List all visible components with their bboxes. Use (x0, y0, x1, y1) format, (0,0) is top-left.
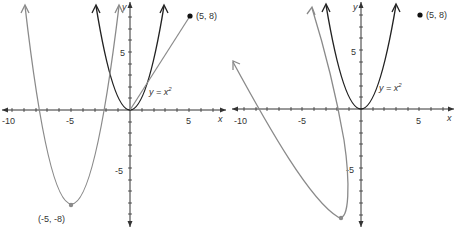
y-tick-label: 5 (351, 47, 356, 57)
y-axis-top-arrow-icon (359, 2, 364, 8)
x-axis-left-arrow-icon (2, 108, 8, 113)
y-axis-bottom-arrow-icon (128, 221, 133, 227)
point-label: (5, 8) (426, 10, 447, 20)
x-tick-label: -5 (298, 116, 306, 126)
transformed-parabola (233, 8, 348, 218)
x-axis-right-arrow-icon (220, 108, 226, 113)
y-axis-label: y (352, 2, 358, 12)
point-label: (5, 8) (196, 11, 217, 21)
right-panel: -10 -5 5 5 -5 x y (5, 8) y = x2 (232, 2, 454, 227)
vertex-marker (69, 203, 73, 207)
y-axis-bottom-arrow-icon (359, 221, 364, 227)
y-axis-top-arrow-icon (128, 2, 133, 8)
left-panel: -10 -5 5 5 -5 x y (5, 8) (-5, -8) y = x2 (2, 2, 226, 227)
x-tick-label: -5 (66, 116, 74, 126)
x-axis-right-arrow-icon (448, 107, 454, 112)
figure-canvas: -10 -5 5 5 -5 x y (5, 8) (-5, -8) y = x2 (0, 0, 457, 229)
x-axis-left-arrow-icon (232, 107, 238, 112)
y-tick-label: -5 (115, 166, 123, 176)
y-tick-label: 5 (120, 48, 125, 58)
point-marker (187, 13, 192, 18)
point-marker (417, 12, 422, 17)
x-tick-label: -10 (234, 116, 247, 126)
curve-label: y = x2 (378, 82, 402, 93)
transformed-parabola (25, 6, 119, 204)
x-tick-label: 5 (416, 116, 421, 126)
vertex-label: (-5, -8) (38, 214, 65, 224)
x-axis-label: x (217, 114, 223, 124)
x-axis-label: x (446, 113, 452, 123)
x-tick-label: -10 (2, 116, 15, 126)
x-tick-label: 5 (186, 116, 191, 126)
curve-label: y = x2 (148, 86, 172, 97)
vertex-marker (339, 216, 343, 220)
